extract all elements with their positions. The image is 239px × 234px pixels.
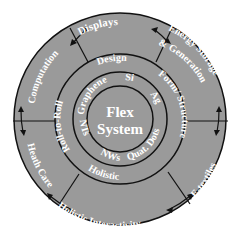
center-title-system: System	[97, 121, 143, 137]
center-title-flex: Flex	[106, 104, 134, 120]
flex-system-diagram: Flex System Graphene Si Ag Quat. Dots NW…	[0, 0, 239, 234]
